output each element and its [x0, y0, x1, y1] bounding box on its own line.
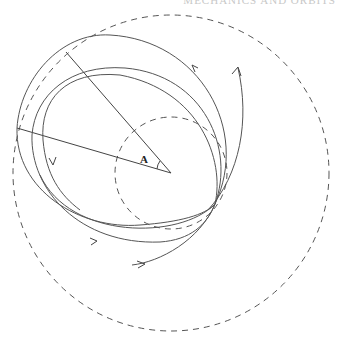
angle-arc — [157, 161, 160, 169]
angle-label: A — [140, 153, 148, 165]
orbit-curve-1 — [17, 35, 226, 226]
orbit-curve-4 — [40, 175, 215, 228]
orbit-diagram: A — [0, 0, 340, 343]
arrowhead-upper — [192, 65, 198, 72]
radius-line-upper — [66, 52, 171, 173]
arrowhead-left — [49, 157, 56, 165]
radius-line-lower — [17, 128, 171, 173]
orbit-curve-3 — [43, 74, 217, 210]
arrowhead-bottom-left — [90, 238, 97, 245]
